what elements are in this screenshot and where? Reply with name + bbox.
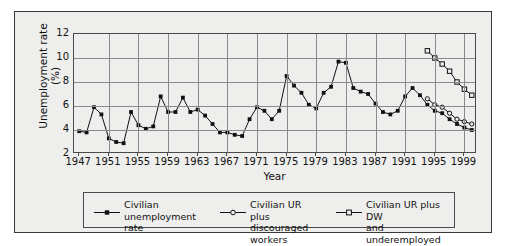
- data-point: [240, 134, 244, 138]
- x-tick-mark: [434, 152, 435, 156]
- gridline-vertical: [346, 34, 347, 152]
- data-point: [277, 109, 281, 113]
- legend-marker-icon: [336, 202, 362, 211]
- data-point: [388, 113, 392, 117]
- data-point: [292, 84, 296, 88]
- data-point: [329, 85, 333, 89]
- y-tick-label: 8: [47, 76, 69, 86]
- gridline-horizontal: [74, 106, 475, 107]
- x-tick-mark: [197, 152, 198, 156]
- data-point: [455, 117, 459, 121]
- data-point: [418, 93, 422, 97]
- data-point: [270, 117, 274, 121]
- data-point: [233, 133, 237, 137]
- gridline-vertical: [227, 34, 228, 152]
- data-point: [129, 110, 133, 114]
- data-point: [440, 111, 444, 115]
- data-point: [396, 109, 400, 113]
- series-2: [425, 49, 474, 98]
- x-axis-label: Year: [73, 170, 476, 182]
- x-tick-mark: [137, 152, 138, 156]
- x-tick-mark: [463, 152, 464, 156]
- data-point: [359, 90, 363, 94]
- legend-marker-icon: [94, 202, 120, 211]
- data-point: [100, 113, 104, 117]
- data-point: [122, 141, 126, 145]
- data-point: [425, 49, 429, 53]
- data-point: [455, 122, 459, 126]
- x-tick-mark: [345, 152, 346, 156]
- gridline-horizontal: [74, 58, 475, 59]
- data-point: [151, 125, 155, 129]
- data-point: [381, 110, 385, 114]
- data-point: [411, 86, 415, 90]
- data-point: [447, 111, 451, 115]
- data-point: [448, 117, 452, 121]
- gridline-vertical: [138, 34, 139, 152]
- figure-container: Unemployment rate (%) 24681012 194719511…: [0, 0, 506, 246]
- data-point: [351, 86, 355, 90]
- data-point: [300, 91, 304, 95]
- gridline-vertical: [257, 34, 258, 152]
- gridline-vertical: [198, 34, 199, 152]
- y-tick-label: 6: [47, 100, 69, 110]
- series-0: [77, 60, 473, 145]
- gridline-vertical: [405, 34, 406, 152]
- data-point: [337, 60, 341, 64]
- data-point: [248, 117, 252, 121]
- x-tick-mark: [315, 152, 316, 156]
- data-point: [322, 91, 326, 95]
- gridline-vertical: [168, 34, 169, 152]
- x-tick-mark: [167, 152, 168, 156]
- x-tick-mark: [108, 152, 109, 156]
- chart-panel: Unemployment rate (%) 24681012 194719511…: [14, 11, 492, 233]
- y-tick-label: 10: [47, 52, 69, 62]
- legend-label: Civilian unemployment rate: [124, 199, 196, 234]
- legend-marker-icon: [220, 202, 246, 211]
- gridline-horizontal: [74, 82, 475, 83]
- x-axis-ticks: 1947195119551959196319671971197519791983…: [73, 156, 476, 170]
- gridline-vertical: [464, 34, 465, 152]
- data-point: [159, 95, 163, 99]
- data-point: [470, 93, 474, 97]
- data-point: [211, 122, 215, 126]
- gridline-vertical: [109, 34, 110, 152]
- data-point: [447, 69, 451, 73]
- x-tick-mark: [375, 152, 376, 156]
- data-point: [114, 140, 118, 144]
- chart-legend: Civilian unemployment rateCivilian UR pl…: [83, 192, 455, 228]
- plot-area: [73, 33, 476, 153]
- data-point: [440, 62, 444, 66]
- x-tick-mark: [256, 152, 257, 156]
- gridline-vertical: [376, 34, 377, 152]
- gridline-vertical: [316, 34, 317, 152]
- data-point: [366, 92, 370, 96]
- data-point: [218, 131, 222, 135]
- x-tick-mark: [286, 152, 287, 156]
- y-tick-label: 12: [47, 28, 69, 38]
- legend-label: Civilian UR plus DW and underemployed: [366, 199, 441, 245]
- data-point: [470, 122, 474, 126]
- legend-label: Civilian UR plus discouraged workers: [250, 199, 308, 245]
- data-point: [85, 131, 89, 135]
- x-tick-mark: [78, 152, 79, 156]
- series-1: [425, 97, 474, 126]
- data-point: [188, 110, 192, 114]
- data-point: [203, 114, 207, 118]
- x-tick-label: 1999: [443, 156, 483, 168]
- y-axis-ticks: 24681012: [45, 33, 69, 153]
- gridline-vertical: [435, 34, 436, 152]
- gridline-vertical: [287, 34, 288, 152]
- data-point: [181, 96, 185, 100]
- x-tick-mark: [404, 152, 405, 156]
- data-point: [262, 109, 266, 113]
- data-point: [425, 97, 429, 101]
- y-tick-label: 4: [47, 124, 69, 134]
- series-layer: [74, 34, 477, 154]
- data-point: [174, 110, 178, 114]
- gridline-horizontal: [74, 130, 475, 131]
- x-tick-mark: [226, 152, 227, 156]
